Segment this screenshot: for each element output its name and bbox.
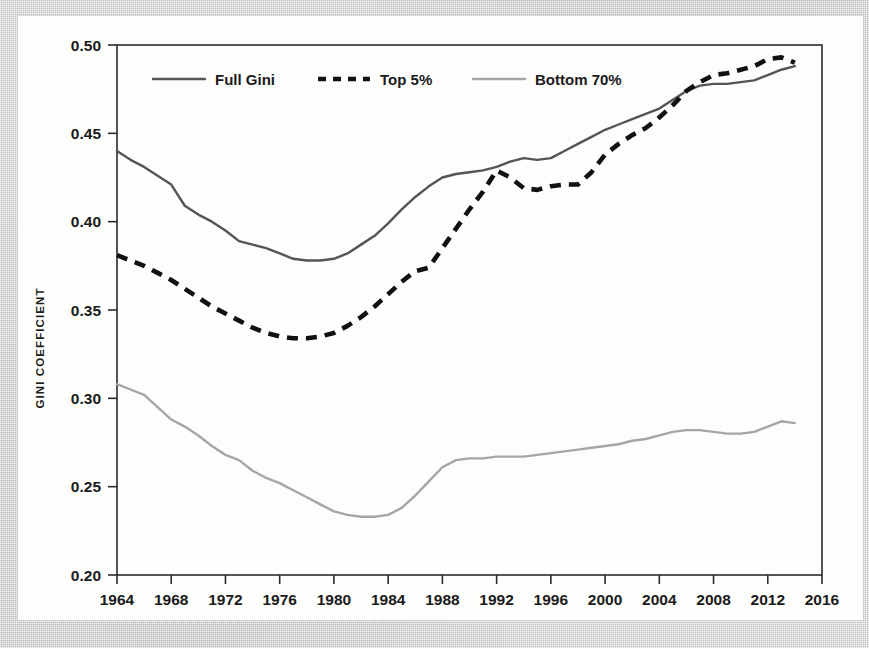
- x-tick-label: 2000: [588, 591, 622, 608]
- y-tick-label: 0.30: [71, 390, 101, 407]
- y-axis-ticks: [108, 45, 117, 575]
- x-axis-tick-labels: 1964196819721976198019841988199219962000…: [100, 591, 840, 608]
- y-axis-title: GINI COEFFICIENT: [34, 287, 46, 408]
- y-axis-tick-labels: 0.200.250.300.350.400.450.50: [71, 37, 102, 584]
- x-axis-ticks: [117, 575, 822, 584]
- x-tick-label: 1988: [425, 591, 460, 608]
- x-tick-label: 1996: [534, 591, 569, 608]
- x-tick-label: 1968: [154, 591, 189, 608]
- legend-label: Bottom 70%: [535, 71, 622, 88]
- y-tick-label: 0.25: [71, 478, 102, 495]
- legend-label: Top 5%: [380, 71, 432, 88]
- series-line: [117, 57, 795, 338]
- y-tick-label: 0.35: [71, 302, 102, 319]
- y-tick-label: 0.45: [71, 125, 102, 142]
- x-tick-label: 1980: [317, 591, 351, 608]
- x-tick-label: 1964: [100, 591, 135, 608]
- x-tick-label: 1992: [479, 591, 513, 608]
- x-tick-label: 1984: [371, 591, 406, 608]
- gini-coefficient-line-chart: GINI COEFFICIENT 0.200.250.300.350.400.4…: [18, 16, 863, 620]
- x-tick-label: 2016: [805, 591, 840, 608]
- chart-canvas: GINI COEFFICIENT 0.200.250.300.350.400.4…: [18, 16, 863, 620]
- y-tick-label: 0.50: [71, 37, 101, 54]
- x-tick-label: 1972: [208, 591, 242, 608]
- x-tick-label: 2008: [696, 591, 731, 608]
- x-tick-label: 2004: [642, 591, 677, 608]
- paper-surface: GINI COEFFICIENT 0.200.250.300.350.400.4…: [18, 16, 863, 620]
- data-series-layer: [117, 57, 795, 516]
- series-line: [117, 384, 795, 517]
- scanned-page: GINI COEFFICIENT 0.200.250.300.350.400.4…: [0, 0, 869, 648]
- y-tick-label: 0.40: [71, 213, 101, 230]
- x-tick-label: 2012: [751, 591, 785, 608]
- chart-legend: Full GiniTop 5%Bottom 70%: [153, 71, 622, 88]
- y-tick-label: 0.20: [71, 567, 101, 584]
- x-tick-label: 1976: [262, 591, 297, 608]
- legend-label: Full Gini: [215, 71, 275, 88]
